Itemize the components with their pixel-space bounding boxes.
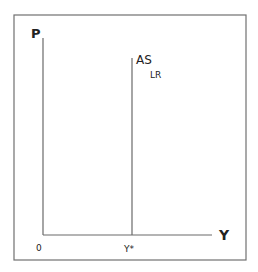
curve-label-lr: LR bbox=[150, 70, 161, 80]
y-axis-label: P bbox=[31, 26, 41, 41]
frame-border bbox=[14, 15, 246, 260]
aslr-diagram: P Y 0 AS LR Y* bbox=[0, 0, 258, 272]
origin-label: 0 bbox=[36, 243, 42, 253]
curve-label-as: AS bbox=[136, 53, 152, 67]
x-axis-label: Y bbox=[218, 227, 230, 243]
x-tick-label-ystar: Y* bbox=[123, 244, 134, 254]
